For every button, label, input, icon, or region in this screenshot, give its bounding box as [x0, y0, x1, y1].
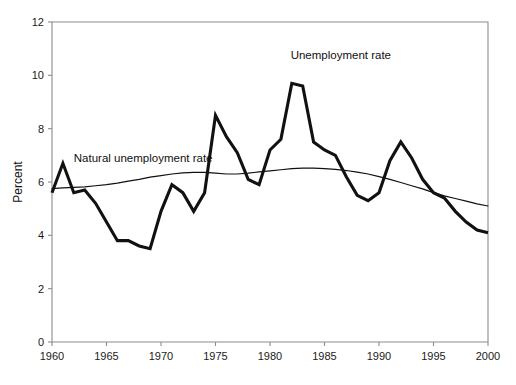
x-tick-label: 1985 [312, 350, 336, 362]
x-tick-label: 2000 [476, 350, 500, 362]
x-tick-label: 1960 [40, 350, 64, 362]
x-axis-tick-marks [52, 342, 488, 346]
y-tick-label: 0 [38, 336, 44, 348]
natural-unemployment-rate-label: Natural unemployment rate [74, 152, 213, 164]
x-axis-tick-labels: 196019651970197519801985199019952000 [40, 350, 500, 362]
unemployment-rate-chart: 024681012 196019651970197519801985199019… [0, 0, 516, 385]
x-tick-label: 1965 [94, 350, 118, 362]
unemployment-rate-label: Unemployment rate [291, 49, 391, 61]
y-axis-title: Percent [11, 161, 25, 203]
y-tick-label: 4 [38, 229, 44, 241]
natural-unemployment-rate-line [52, 168, 488, 206]
y-tick-label: 8 [38, 123, 44, 135]
y-axis-tick-marks [48, 22, 52, 342]
x-tick-label: 1970 [149, 350, 173, 362]
x-tick-label: 1980 [258, 350, 282, 362]
x-tick-label: 1975 [203, 350, 227, 362]
unemployment-rate-line [52, 83, 488, 248]
y-tick-label: 2 [38, 283, 44, 295]
y-tick-label: 6 [38, 176, 44, 188]
chart-canvas: 024681012 196019651970197519801985199019… [0, 0, 516, 385]
y-tick-label: 10 [32, 69, 44, 81]
x-tick-label: 1995 [421, 350, 445, 362]
y-tick-label: 12 [32, 16, 44, 28]
x-tick-label: 1990 [367, 350, 391, 362]
y-axis-tick-labels: 024681012 [32, 16, 44, 348]
plot-frame [52, 22, 488, 342]
